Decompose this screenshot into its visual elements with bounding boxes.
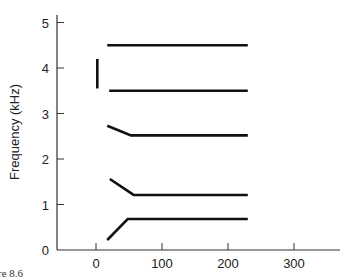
formant-line-f1: [107, 219, 248, 240]
x-tick-label: 0: [92, 256, 99, 271]
x-ticks: 0100200300: [92, 243, 304, 271]
formant-line-f3: [107, 126, 248, 136]
figure-caption: re 8.6: [0, 267, 24, 279]
y-tick-label: 0: [42, 243, 49, 258]
y-tick-label: 4: [42, 61, 49, 76]
x-tick-label: 200: [217, 256, 239, 271]
y-tick-label: 2: [42, 152, 49, 167]
formant-line-f2: [110, 179, 248, 195]
series-group: [97, 45, 247, 240]
x-tick-label: 100: [151, 256, 173, 271]
y-tick-label: 5: [42, 16, 49, 31]
x-tick-label: 300: [283, 256, 305, 271]
axes: [57, 15, 340, 250]
chart: 012345 0100200300 Frequency (kHz) re 8.6: [0, 0, 357, 280]
y-axis-label: Frequency (kHz): [7, 84, 22, 180]
y-tick-label: 3: [42, 107, 49, 122]
y-tick-label: 1: [42, 198, 49, 213]
y-ticks: 012345: [42, 16, 64, 259]
